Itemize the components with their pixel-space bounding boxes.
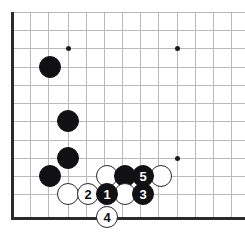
grid-line-horizontal-0 — [12, 12, 245, 13]
move-number-label: 4 — [103, 211, 110, 224]
stone-black[interactable] — [57, 147, 79, 169]
grid-line-horizontal-2 — [12, 48, 245, 49]
stone-black[interactable] — [39, 165, 61, 187]
move-number-label: 5 — [139, 170, 146, 183]
grid-line-horizontal-7 — [12, 140, 245, 141]
star-point-upper-right — [175, 46, 180, 51]
board-edge-bottom — [11, 217, 245, 220]
grid-line-horizontal-4 — [12, 85, 245, 86]
go-board[interactable]: 21354 — [0, 0, 245, 238]
move-stone-4[interactable]: 4 — [96, 206, 118, 228]
grid-line-vertical-11 — [213, 12, 214, 217]
grid-line-horizontal-5 — [12, 103, 245, 104]
board-edge-left — [11, 12, 14, 220]
move-number-label: 2 — [84, 188, 91, 201]
grid-line-vertical-9 — [177, 12, 178, 217]
go-board-diagram: 21354 — [0, 0, 245, 238]
move-number-label: 3 — [139, 188, 146, 201]
grid-line-horizontal-8 — [12, 158, 245, 159]
grid-line-horizontal-1 — [12, 30, 245, 31]
grid-line-horizontal-6 — [12, 121, 245, 122]
grid-line-vertical-10 — [195, 12, 196, 217]
stone-white[interactable] — [57, 183, 79, 205]
grid-line-vertical-12 — [231, 12, 232, 217]
stone-black[interactable] — [57, 110, 79, 132]
move-stone-1[interactable]: 1 — [96, 183, 118, 205]
move-stone-5[interactable]: 5 — [132, 165, 154, 187]
stone-black[interactable] — [39, 56, 61, 78]
grid-line-vertical-1 — [30, 12, 31, 217]
star-point-upper-left — [66, 46, 71, 51]
move-number-label: 1 — [103, 188, 110, 201]
star-point-lower-right — [175, 156, 180, 161]
